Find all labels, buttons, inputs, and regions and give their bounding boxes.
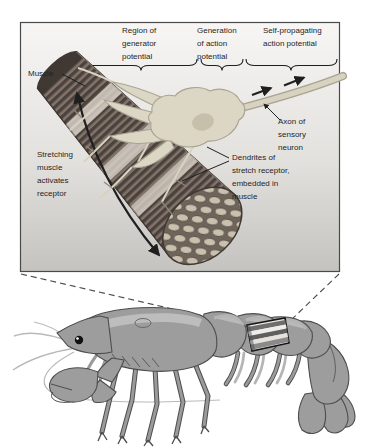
crayfish-claw — [50, 358, 124, 403]
crayfish-head — [57, 316, 112, 354]
crayfish-eye — [75, 336, 83, 344]
eye-highlight — [76, 337, 79, 340]
crayfish-swimmerets — [226, 352, 300, 385]
stretching-muscle-label: Stretching muscle activates receptor — [37, 148, 73, 200]
diagram-artwork — [0, 0, 368, 447]
muscle-label: Muscle — [28, 67, 53, 80]
generation-of-action-potential-label: Generation of action potential — [197, 24, 237, 63]
crayfish-illustration — [13, 308, 355, 446]
dendrites-label: Dendrites of stretch receptor, embedded … — [232, 151, 289, 203]
region-of-generator-potential-label: Region of generator potential — [122, 24, 156, 63]
figure-stretch-receptor: Region of generator potential Generation… — [0, 0, 368, 447]
self-propagating-action-potential-label: Self-propagating action potential — [263, 24, 322, 50]
axon-of-sensory-neuron-label: Axon of sensory neuron — [278, 115, 306, 154]
